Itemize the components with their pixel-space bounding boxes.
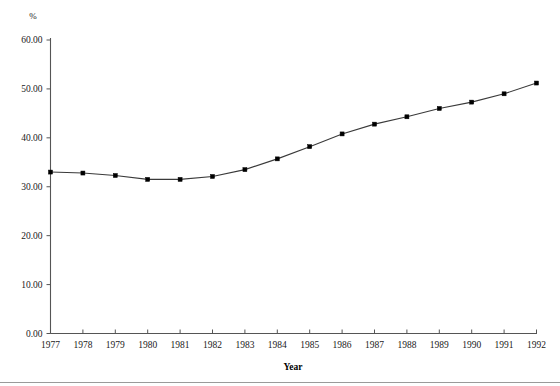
- data-point-marker: [81, 171, 85, 175]
- x-tick-label: 1979: [106, 340, 125, 350]
- x-tick-label: 1988: [397, 340, 416, 350]
- y-tick-label: 20.00: [21, 231, 43, 241]
- data-point-marker: [178, 177, 182, 181]
- x-axis-ticks: [51, 330, 537, 334]
- x-axis-tick-labels: 1977197819791980198119821983198419851986…: [41, 340, 546, 350]
- data-point-marker: [49, 170, 53, 174]
- x-tick-label: 1992: [527, 340, 546, 350]
- data-point-marker: [243, 168, 247, 172]
- x-tick-label: 1991: [495, 340, 514, 350]
- x-tick-label: 1980: [138, 340, 157, 350]
- y-tick-label: 0.00: [26, 329, 43, 339]
- data-point-marker: [146, 177, 150, 181]
- line-chart-canvas: 0.0010.0020.0030.0040.0050.0060.00 19771…: [0, 0, 560, 386]
- x-tick-label: 1989: [430, 340, 449, 350]
- x-tick-label: 1984: [268, 340, 287, 350]
- data-point-marker: [470, 100, 474, 104]
- y-axis-unit-label: %: [29, 11, 37, 21]
- y-axis-tick-labels: 0.0010.0020.0030.0040.0050.0060.00: [21, 35, 43, 339]
- x-tick-label: 1990: [462, 340, 481, 350]
- data-point-marker: [373, 122, 377, 126]
- x-tick-label: 1981: [171, 340, 190, 350]
- data-point-marker: [275, 157, 279, 161]
- y-tick-label: 10.00: [21, 280, 43, 290]
- chart-figure: 0.0010.0020.0030.0040.0050.0060.00 19771…: [0, 0, 560, 386]
- data-point-marker: [405, 115, 409, 119]
- data-point-marker: [340, 132, 344, 136]
- x-tick-label: 1985: [300, 340, 319, 350]
- x-tick-label: 1978: [73, 340, 92, 350]
- data-point-marker: [502, 92, 506, 96]
- y-tick-label: 30.00: [21, 182, 43, 192]
- y-tick-label: 50.00: [21, 84, 43, 94]
- x-axis-title: Year: [284, 362, 304, 372]
- y-tick-label: 60.00: [21, 35, 43, 45]
- x-tick-label: 1987: [365, 340, 384, 350]
- data-point-marker: [437, 106, 441, 110]
- data-point-marker: [308, 145, 312, 149]
- x-tick-label: 1982: [203, 340, 222, 350]
- data-point-marker: [211, 174, 215, 178]
- chart-axes: [51, 38, 538, 334]
- x-tick-label: 1983: [235, 340, 254, 350]
- data-series-markers: [49, 81, 539, 181]
- y-axis-ticks: [47, 40, 51, 334]
- x-tick-label: 1977: [41, 340, 60, 350]
- data-series-line: [51, 83, 537, 179]
- data-point-marker: [535, 81, 539, 85]
- y-tick-label: 40.00: [21, 133, 43, 143]
- data-point-marker: [113, 174, 117, 178]
- x-tick-label: 1986: [333, 340, 352, 350]
